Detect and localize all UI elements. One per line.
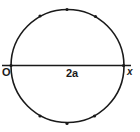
origin-label: O (2, 66, 11, 78)
axis-label: x (126, 66, 133, 77)
point-upper-right (94, 15, 97, 18)
point-bottom (65, 122, 68, 125)
point-lower-left (38, 114, 41, 117)
point-lower-right (93, 114, 96, 117)
point-right (122, 64, 125, 67)
point-upper-left (38, 14, 41, 17)
diameter-label: 2a (66, 67, 79, 79)
point-top (65, 8, 68, 11)
circle-diagram: O 2a x (0, 0, 140, 132)
